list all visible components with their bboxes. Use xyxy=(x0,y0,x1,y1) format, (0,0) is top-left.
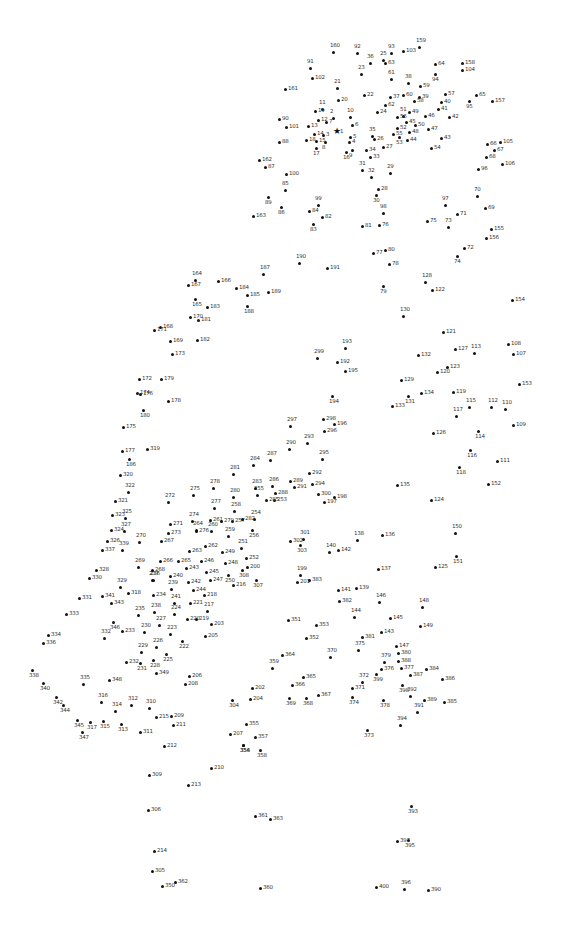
dot-point[interactable] xyxy=(106,540,109,543)
dot-point[interactable] xyxy=(151,569,154,572)
dot-point[interactable] xyxy=(372,252,375,255)
dot-point[interactable] xyxy=(518,383,521,386)
dot-point[interactable] xyxy=(151,579,154,582)
dot-point[interactable] xyxy=(100,701,103,704)
dot-point[interactable] xyxy=(163,745,166,748)
dot-point[interactable] xyxy=(443,701,446,704)
dot-point[interactable] xyxy=(461,69,464,72)
dot-point[interactable] xyxy=(204,635,207,638)
dot-point[interactable] xyxy=(119,586,122,589)
dot-point[interactable] xyxy=(161,885,164,888)
dot-point[interactable] xyxy=(147,809,150,812)
dot-point[interactable] xyxy=(378,601,381,604)
dot-point[interactable] xyxy=(321,216,324,219)
dot-point[interactable] xyxy=(416,711,419,714)
dot-point[interactable] xyxy=(138,541,141,544)
dot-point[interactable] xyxy=(185,567,188,570)
dot-point[interactable] xyxy=(490,406,493,409)
dot-point[interactable] xyxy=(356,52,359,55)
dot-point[interactable] xyxy=(311,77,314,80)
dot-point[interactable] xyxy=(323,501,326,504)
dot-point[interactable] xyxy=(400,667,403,670)
dot-point[interactable] xyxy=(245,723,248,726)
dot-point[interactable] xyxy=(289,540,292,543)
dot-point[interactable] xyxy=(169,340,172,343)
dot-point[interactable] xyxy=(146,448,149,451)
dot-point[interactable] xyxy=(177,560,180,563)
dot-point[interactable] xyxy=(306,442,309,445)
dot-point[interactable] xyxy=(337,549,340,552)
dot-point[interactable] xyxy=(121,549,124,552)
dot-point[interactable] xyxy=(349,136,352,139)
dot-point[interactable] xyxy=(333,496,336,499)
dot-point[interactable] xyxy=(406,139,409,142)
dot-point[interactable] xyxy=(137,614,140,617)
dot-point[interactable] xyxy=(251,687,254,690)
dot-point[interactable] xyxy=(191,520,194,523)
dot-point[interactable] xyxy=(384,104,387,107)
dot-point[interactable] xyxy=(361,636,364,639)
dot-point[interactable] xyxy=(390,52,393,55)
dot-point[interactable] xyxy=(302,676,305,679)
dot-point[interactable] xyxy=(192,589,195,592)
dot-point[interactable] xyxy=(188,550,191,553)
dot-point[interactable] xyxy=(390,78,393,81)
dot-point[interactable] xyxy=(424,115,427,118)
dot-point[interactable] xyxy=(381,534,384,537)
dot-point[interactable] xyxy=(245,557,248,560)
dot-point[interactable] xyxy=(148,707,151,710)
dot-point[interactable] xyxy=(363,94,366,97)
dot-point[interactable] xyxy=(392,133,395,136)
dot-point[interactable] xyxy=(196,339,199,342)
dot-point[interactable] xyxy=(487,483,490,486)
dot-point[interactable] xyxy=(152,594,155,597)
dot-point[interactable] xyxy=(437,108,440,111)
dot-point[interactable] xyxy=(418,46,421,49)
dot-point[interactable] xyxy=(121,630,124,633)
dot-point[interactable] xyxy=(463,247,466,250)
dot-point[interactable] xyxy=(370,176,373,179)
dot-point[interactable] xyxy=(420,392,423,395)
dot-point[interactable] xyxy=(477,168,480,171)
dot-point[interactable] xyxy=(384,249,387,252)
dot-point[interactable] xyxy=(448,116,451,119)
dot-point[interactable] xyxy=(344,347,347,350)
dot-point[interactable] xyxy=(153,611,156,614)
dot-point[interactable] xyxy=(119,474,122,477)
dot-point[interactable] xyxy=(409,674,412,677)
dot-point[interactable] xyxy=(267,291,270,294)
dot-point[interactable] xyxy=(169,575,172,578)
dot-point[interactable] xyxy=(403,888,406,891)
dot-point[interactable] xyxy=(485,237,488,240)
dot-point[interactable] xyxy=(209,579,212,582)
dot-point[interactable] xyxy=(125,661,128,664)
dot-point[interactable] xyxy=(284,189,287,192)
dot-point[interactable] xyxy=(512,424,515,427)
dot-point[interactable] xyxy=(322,418,325,421)
dot-point[interactable] xyxy=(88,577,91,580)
dot-point[interactable] xyxy=(101,595,104,598)
dot-point[interactable] xyxy=(278,141,281,144)
dot-point[interactable] xyxy=(447,226,450,229)
dot-point[interactable] xyxy=(408,111,411,114)
dot-point[interactable] xyxy=(139,393,142,396)
dot-point[interactable] xyxy=(402,94,405,97)
dot-point[interactable] xyxy=(278,118,281,121)
dot-point[interactable] xyxy=(172,724,175,727)
dot-point[interactable] xyxy=(271,667,274,670)
dot-point[interactable] xyxy=(173,602,176,605)
dot-point[interactable] xyxy=(308,472,311,475)
dot-point[interactable] xyxy=(485,156,488,159)
dot-point[interactable] xyxy=(305,637,308,640)
dot-point[interactable] xyxy=(291,684,294,687)
dot-point[interactable] xyxy=(171,353,174,356)
dot-point[interactable] xyxy=(490,228,493,231)
dot-point[interactable] xyxy=(504,408,507,411)
dot-point[interactable] xyxy=(78,597,81,600)
dot-point[interactable] xyxy=(189,316,192,319)
dot-point[interactable] xyxy=(389,172,392,175)
dot-point[interactable] xyxy=(256,494,259,497)
dot-point[interactable] xyxy=(361,169,364,172)
dot-point[interactable] xyxy=(311,483,314,486)
dot-point[interactable] xyxy=(456,213,459,216)
